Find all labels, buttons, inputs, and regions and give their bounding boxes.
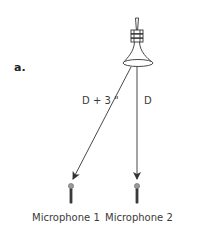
path-label-mic2: D — [144, 95, 152, 107]
microphone-icon — [134, 183, 139, 203]
panel-label: a. — [14, 62, 26, 74]
microphone-1-label: Microphone 1 — [32, 212, 100, 224]
diagram-canvas: a. D + 3 " D Microphone 1 Microphone 2 — [0, 0, 202, 235]
path-label-mic1: D + 3 " — [82, 95, 119, 107]
horn-speaker-icon — [123, 18, 153, 67]
diagram-graphics — [0, 0, 202, 235]
microphone-icon — [68, 183, 73, 203]
path-line-mic1 — [73, 67, 131, 179]
microphone-2-label: Microphone 2 — [105, 212, 173, 224]
